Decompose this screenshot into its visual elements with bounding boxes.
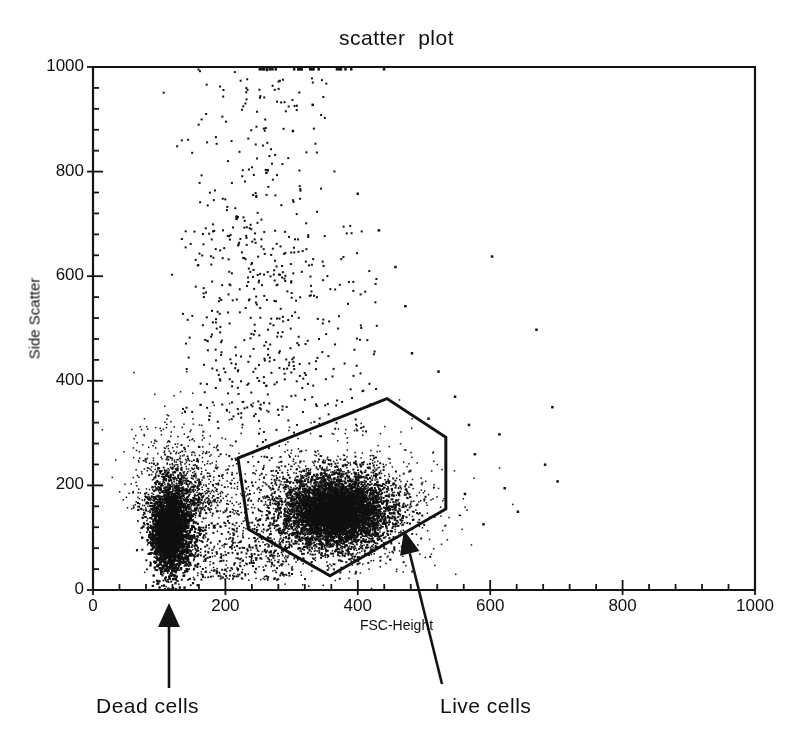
x-axis-title: FSC-Height: [0, 617, 793, 633]
x-tick-label: 600: [455, 596, 525, 616]
x-tick-label: 0: [58, 596, 128, 616]
x-tick-label: 200: [190, 596, 260, 616]
scatter-plot-figure: scatter plot Side Scatter FSC-Height 020…: [0, 0, 793, 755]
y-tick-label: 0: [14, 579, 84, 599]
annotation-dead-cells: Dead cells: [96, 694, 199, 718]
x-tick-label: 1000: [720, 596, 790, 616]
chart-title: scatter plot: [0, 26, 793, 50]
y-tick-label: 1000: [14, 56, 84, 76]
y-tick-label: 800: [14, 161, 84, 181]
y-tick-label: 200: [14, 474, 84, 494]
scatter-plot-canvas: [0, 0, 793, 755]
y-tick-label: 600: [14, 265, 84, 285]
x-tick-label: 400: [323, 596, 393, 616]
x-tick-label: 800: [588, 596, 658, 616]
y-tick-label: 400: [14, 370, 84, 390]
annotation-live-cells: Live cells: [440, 694, 531, 718]
